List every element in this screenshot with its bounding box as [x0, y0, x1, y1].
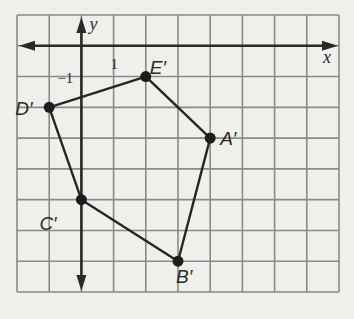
- y-axis-label: y: [87, 14, 97, 34]
- vertex-label: E′: [150, 57, 168, 78]
- vertex-label: B′: [176, 266, 194, 287]
- vertex-point: [76, 194, 87, 205]
- x-axis-label: x: [322, 47, 331, 67]
- coordinate-plane: x y 1 −1 A′B′C′D′E′: [0, 0, 354, 319]
- vertex-label: C′: [39, 213, 58, 234]
- x-axis-left-arrow-icon: [19, 41, 35, 51]
- vertex-label: A′: [219, 128, 238, 149]
- y-tick-label: −1: [57, 70, 73, 86]
- vertex-point: [44, 102, 55, 113]
- vertex-point: [205, 133, 216, 144]
- vertex-point: [173, 256, 184, 267]
- y-axis-bottom-arrow-icon: [76, 275, 86, 291]
- vertex-label: D′: [15, 98, 34, 119]
- y-axis-top-arrow-icon: [76, 17, 86, 33]
- x-tick-label: 1: [111, 56, 119, 72]
